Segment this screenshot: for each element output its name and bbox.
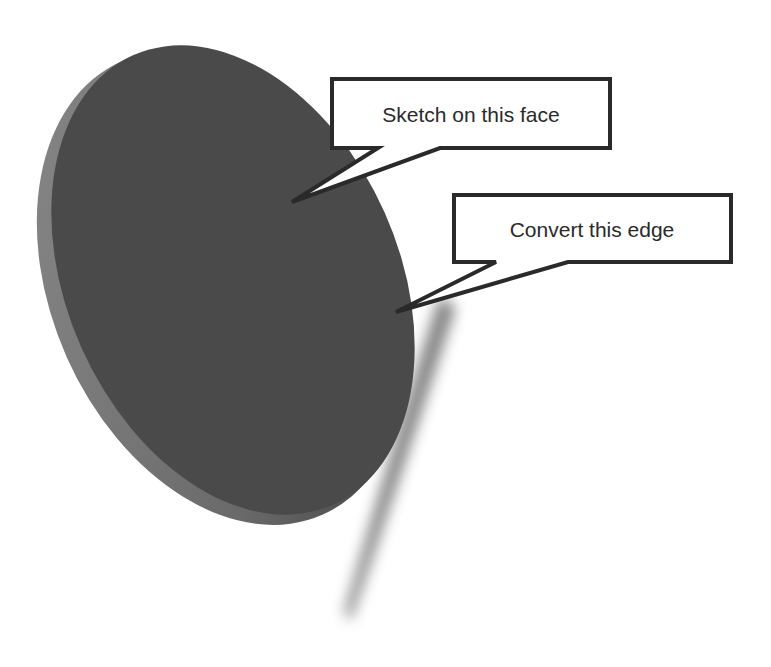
callout-convert-edge: Convert this edge xyxy=(396,195,731,312)
callout-label: Convert this edge xyxy=(510,218,675,241)
diagram-canvas: Sketch on this face Convert this edge xyxy=(0,0,771,667)
callout-sketch-face: Sketch on this face xyxy=(292,79,610,202)
callout-label: Sketch on this face xyxy=(382,103,559,126)
